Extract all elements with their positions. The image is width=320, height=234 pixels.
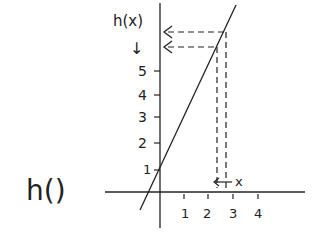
x-tick-label-1: 1 bbox=[181, 206, 189, 221]
y-tick-label-1: 1 bbox=[143, 162, 151, 177]
y-tick-label-3: 3 bbox=[138, 109, 147, 125]
dashed-guides bbox=[168, 32, 226, 188]
function-line bbox=[140, 5, 236, 210]
y-ticks bbox=[154, 71, 160, 170]
x-ticks bbox=[184, 194, 258, 199]
x-tick-label-2: 2 bbox=[203, 206, 211, 221]
function-graph: 1 2 3 4 1 2 3 4 5 h(x) ↓ x h() bbox=[0, 0, 320, 234]
x-tick-label-4: 4 bbox=[254, 206, 262, 221]
y-tick-label-5: 5 bbox=[138, 63, 147, 79]
down-arrow-icon: ↓ bbox=[130, 39, 143, 58]
left-arrow-icon bbox=[164, 26, 172, 53]
x-input-label: x bbox=[235, 174, 243, 189]
y-axis-label: h(x) bbox=[113, 12, 143, 30]
x-tick-label-3: 3 bbox=[229, 206, 237, 221]
y-tick-label-4: 4 bbox=[138, 87, 147, 103]
function-label: h() bbox=[26, 174, 66, 207]
y-tick-label-2: 2 bbox=[138, 135, 147, 151]
x-shift-arrow-icon bbox=[214, 178, 232, 186]
